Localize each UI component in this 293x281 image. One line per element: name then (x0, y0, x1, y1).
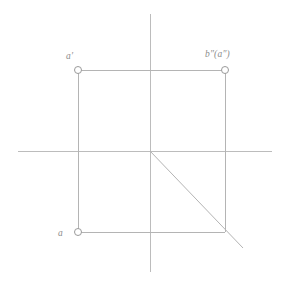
diagonal-transfer-line (150, 151, 243, 248)
projection-diagram: a′ b″(a″) a (0, 0, 293, 281)
point-marker-a-prime (75, 67, 82, 74)
point-marker-b-double-prime (222, 67, 229, 74)
diagram-canvas (0, 0, 293, 281)
axes-group (18, 14, 272, 272)
point-marker-a (75, 229, 82, 236)
point-label-a: a (58, 229, 63, 239)
point-label-a-prime: a′ (66, 52, 73, 62)
point-label-b-double-prime-a-double-prime: b″(a″) (205, 50, 230, 60)
